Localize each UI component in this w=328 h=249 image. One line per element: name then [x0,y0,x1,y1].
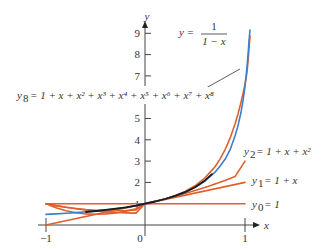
y-tick-label-9: 9 [135,27,141,39]
y-tick-label-8: 8 [135,48,141,60]
geom-label-lhs: y = [178,26,194,38]
x-tick-label-0: 0 [137,232,143,244]
x-tick-label-neg1: −1 [40,232,52,244]
y-axis-label: y [144,10,150,22]
y1-label-name: y [251,174,257,186]
y2-label-sub: 2 [250,148,256,160]
geom-label-denominator: 1 − x [202,35,225,47]
y1-label-sub: 1 [258,177,264,189]
y8-label-rhs: = 1 + x + x² + x³ + x⁴ + x⁵ + x⁶ + x⁷ + … [30,89,214,101]
y0-label-rhs: = 1 [264,198,280,210]
chart-canvas: 1 2 3 4 5 7 8 9 −1 0 1 y x y = 1 [0,0,328,249]
geom-label-numerator: 1 [211,20,217,32]
y-tick-label-4: 4 [135,134,141,146]
y2-label-rhs: = 1 + x + x² [256,145,311,157]
curve-geometric [46,30,250,214]
y2-label-name: y [243,145,249,157]
y-tick-label-3: 3 [135,155,141,167]
y-tick-label-7: 7 [135,70,141,82]
y8-label-name: y [16,89,22,101]
y-tick-label-5: 5 [135,112,141,124]
annotations: y = 1 1 − x y 8 = 1 + x + x² + x³ + x⁴ +… [16,20,311,213]
y-ticks [145,33,151,203]
y-tick-label-2: 2 [135,176,141,188]
y8-label-sub: 8 [23,92,29,104]
y0-label-name: y [251,198,257,210]
x-axis-arrow-icon [253,222,260,228]
y8-pointer-line [206,69,240,88]
y1-label-rhs: = 1 + x [264,174,298,186]
curves [46,30,250,225]
x-tick-label-1: 1 [242,232,248,244]
x-axis-label: x [263,219,269,231]
y-axis-arrow-icon [142,21,148,28]
